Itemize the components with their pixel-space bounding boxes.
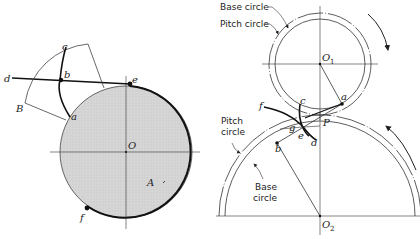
- label-c-right: c: [300, 95, 306, 106]
- label-c: c: [62, 41, 68, 52]
- label-f-right: f: [258, 100, 265, 111]
- callout-base-circle-lower-1: Base: [255, 182, 277, 192]
- label-O2: O: [322, 219, 330, 230]
- lower-rotation-arrow: [386, 126, 416, 170]
- lower-radius-o2-b: [277, 143, 320, 216]
- tangent-line: [12, 78, 130, 84]
- label-P: P: [322, 117, 330, 128]
- label-d: d: [4, 73, 10, 84]
- callout-pitch-circle-lower-2: circle: [221, 127, 245, 137]
- label-g-right: g: [289, 122, 295, 133]
- label-O1-sub: 1: [330, 58, 334, 66]
- callout-base-circle-lower-2: circle: [253, 193, 277, 203]
- label-O1: O: [322, 52, 330, 63]
- right-figure: Base circle Pitch circle Pitch circle Ba…: [216, 2, 420, 235]
- lower-pitch-circle: [219, 115, 420, 216]
- label-A: A: [146, 177, 154, 188]
- label-d-right: d: [311, 137, 317, 148]
- center-o2-dot: [319, 215, 321, 217]
- label-e: e: [132, 74, 138, 85]
- label-b-right: b: [275, 143, 281, 154]
- tooth-profile-upper: [305, 104, 342, 118]
- point-f: [85, 206, 90, 211]
- upper-radius-o1-a: [320, 64, 342, 104]
- label-O2-sub: 2: [330, 225, 334, 233]
- label-O: O: [128, 140, 136, 151]
- label-b: b: [64, 69, 70, 80]
- upper-rotation-arrow: [368, 14, 388, 50]
- leader-base-circle-lower: [254, 164, 263, 179]
- callout-pitch-circle-lower-1: Pitch: [221, 116, 243, 126]
- label-f: f: [79, 212, 86, 223]
- callout-pitch-circle-top: Pitch circle: [220, 19, 269, 29]
- center-o1-dot: [319, 63, 321, 65]
- label-a: a: [71, 111, 77, 122]
- center-o-dot: [125, 151, 127, 153]
- label-B: B: [15, 103, 23, 114]
- point-b: [59, 78, 63, 82]
- label-a-right: a: [341, 91, 347, 102]
- leader-pitch-circle-lower: [232, 143, 240, 153]
- label-e-right: e: [298, 130, 304, 141]
- point-a: [340, 102, 344, 106]
- involute-gear-diagram: d b c a e B O A f: [0, 0, 420, 239]
- left-figure: d b c a e B O A f: [4, 41, 200, 229]
- line-of-action: [277, 104, 342, 143]
- diagram-canvas: d b c a e B O A f: [0, 0, 420, 239]
- callout-base-circle-top: Base circle: [220, 2, 269, 12]
